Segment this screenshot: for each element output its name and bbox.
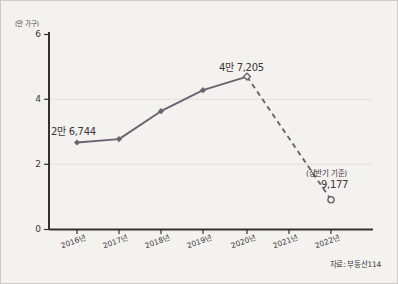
series-line-dashed — [247, 77, 331, 200]
data-point-2016 — [74, 139, 80, 145]
chart-figure: (만 가구) 6 4 2 0 — [0, 0, 398, 284]
y-tick-label-2: 2 — [25, 159, 41, 169]
data-point-2022 — [328, 197, 334, 203]
first-point-label: 2만 6,744 — [51, 123, 96, 138]
data-point-2019 — [200, 87, 206, 93]
last-point-label: 9,177 — [321, 179, 348, 190]
y-tick-label-6: 6 — [25, 29, 41, 39]
peak-point-label: 4만 7,205 — [219, 59, 264, 74]
y-tick-label-0: 0 — [25, 224, 41, 234]
y-tick-label-4: 4 — [25, 94, 41, 104]
source-attribution: 자료: 부동산114 — [330, 258, 381, 269]
basis-note-label: (상반기 기준) — [306, 167, 347, 178]
